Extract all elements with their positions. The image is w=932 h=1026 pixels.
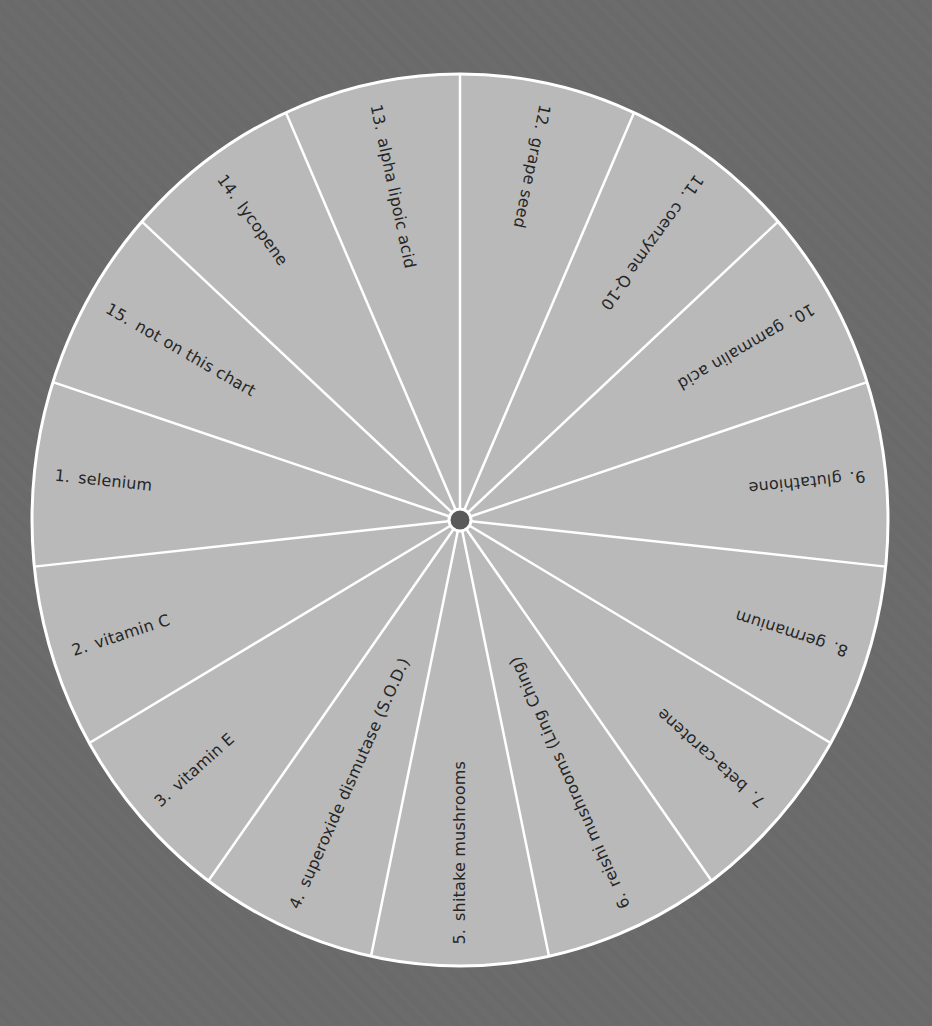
- segment-label-text: 5.shitake mushrooms: [450, 761, 469, 945]
- segment-number: 9.: [849, 467, 867, 488]
- antioxidant-wheel: 1.selenium2.vitamin C3.vitamin E4.supero…: [0, 0, 932, 1026]
- segment-number: 5.: [450, 929, 469, 945]
- wheel-hub: [449, 509, 471, 531]
- segment-name: shitake mushrooms: [450, 761, 469, 921]
- background-panel: 1.selenium2.vitamin C3.vitamin E4.supero…: [0, 0, 932, 1026]
- segment-number: 1.: [54, 465, 72, 486]
- segment-label: 5.shitake mushrooms: [450, 761, 469, 945]
